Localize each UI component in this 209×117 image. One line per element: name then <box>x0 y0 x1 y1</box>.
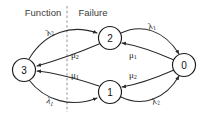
node-0-label: 0 <box>181 60 187 71</box>
rate-subscript: 1 <box>152 24 156 31</box>
rate-label-mu1-inner-upper-right: μ1 <box>129 50 137 61</box>
rate-subscript: 1 <box>76 74 79 81</box>
rate-subscript: 1 <box>49 100 54 108</box>
state-transition-diagram: Function Failure 3 2 1 <box>0 0 209 117</box>
rate-label-lambda1-top-right: λ1 <box>147 20 157 32</box>
edge-1-to-3 <box>37 71 99 86</box>
diagram-canvas: Function Failure 3 2 1 <box>0 0 209 117</box>
rate-subscript: 2 <box>134 74 137 81</box>
node-1: 1 <box>99 81 122 104</box>
rate-label-lambda2-bottom-right: λ2 <box>151 95 161 107</box>
node-2-label: 2 <box>107 33 113 44</box>
node-3: 3 <box>13 59 36 82</box>
node-3-label: 3 <box>21 65 27 76</box>
node-1-label: 1 <box>107 87 113 98</box>
rate-label-mu2-inner-lower-right: μ2 <box>129 70 137 81</box>
edge-3-to-1 <box>29 80 97 102</box>
rate-label-lambda2-top-left: λ2 <box>44 26 55 39</box>
region-label-failure: Failure <box>78 7 107 18</box>
rate-label-mu2-inner-upper-left: μ2 <box>71 50 79 61</box>
rate-subscript: 2 <box>156 99 161 107</box>
rate-subscript: 2 <box>76 54 79 61</box>
rate-label-lambda1-bottom-left: λ1 <box>45 95 55 107</box>
edge-2-to-3 <box>37 44 99 66</box>
node-2: 2 <box>99 27 122 50</box>
rate-subscript: 1 <box>134 54 137 61</box>
edge-3-to-2 <box>29 29 97 59</box>
node-0: 0 <box>173 54 196 77</box>
rate-label-mu1-inner-lower-left: μ1 <box>71 70 79 81</box>
region-label-function: Function <box>25 7 61 18</box>
